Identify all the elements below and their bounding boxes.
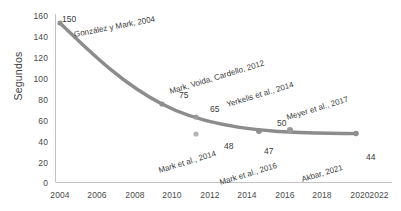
- x-tick-2022: 2022: [362, 190, 396, 200]
- x-tick-2006: 2006: [80, 190, 114, 200]
- y-tick-0: 0: [22, 178, 48, 188]
- x-tick-2010: 2010: [155, 190, 189, 200]
- x-tick-2008: 2008: [118, 190, 152, 200]
- y-tick-20: 20: [22, 158, 48, 168]
- value-label-48: 48: [224, 141, 233, 151]
- value-label-50: 50: [277, 118, 286, 128]
- data-point-2014-a: [193, 131, 198, 136]
- y-tick-80: 80: [22, 95, 48, 105]
- value-label-65: 65: [210, 104, 219, 114]
- data-point-2017: [287, 127, 293, 133]
- attention-span-line-chart: Segundos 160 140 120 100 80 60 40 20 0 2…: [0, 0, 401, 211]
- x-tick-2014: 2014: [230, 190, 264, 200]
- y-tick-60: 60: [22, 116, 48, 126]
- data-point-2016: [256, 128, 262, 134]
- x-tick-2004: 2004: [43, 190, 77, 200]
- data-point-2021: [353, 131, 359, 137]
- y-tick-120: 120: [22, 53, 48, 63]
- y-tick-100: 100: [22, 74, 48, 84]
- value-label-44: 44: [366, 152, 375, 162]
- y-tick-40: 40: [22, 137, 48, 147]
- value-label-150: 150: [62, 14, 76, 24]
- x-tick-2016: 2016: [268, 190, 302, 200]
- data-point-2013: [193, 114, 198, 119]
- value-label-47: 47: [264, 146, 273, 156]
- x-tick-2012: 2012: [193, 190, 227, 200]
- data-point-2012: [159, 101, 164, 106]
- y-tick-140: 140: [22, 32, 48, 42]
- y-tick-160: 160: [22, 11, 48, 21]
- x-tick-2018: 2018: [305, 190, 339, 200]
